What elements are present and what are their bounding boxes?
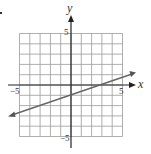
x-min-tick-label: −5 <box>10 87 20 96</box>
x-max-tick-label: 5 <box>119 87 124 96</box>
line-arrow-left-icon <box>8 112 16 118</box>
plotted-line <box>8 71 136 117</box>
x-axis-label: x <box>138 78 143 90</box>
y-max-tick-label: 5 <box>64 28 69 37</box>
coordinate-plane <box>0 0 151 154</box>
line-arrow-right-icon <box>130 71 137 77</box>
y-min-tick-label: −5 <box>60 134 70 143</box>
x-axis <box>8 82 136 88</box>
y-axis-label: y <box>67 2 72 14</box>
y-axis-arrow-icon <box>68 15 74 22</box>
x-axis-arrow-icon <box>129 82 136 88</box>
